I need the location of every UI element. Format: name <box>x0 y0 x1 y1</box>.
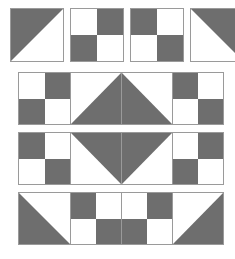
four-patch-quadrant-light <box>198 73 223 99</box>
row-1-detached-squares <box>10 8 235 62</box>
half-square-triangle-patch <box>173 193 223 244</box>
quilt-unit-half-square-triangle <box>121 73 172 124</box>
four-patch-grid <box>19 73 70 124</box>
quilt-unit-half-square-triangle <box>70 133 121 184</box>
quilt-unit-half-square-triangle <box>121 133 172 184</box>
four-patch-quadrant-dark <box>147 193 172 219</box>
four-patch-grid <box>173 133 223 184</box>
four-patch-grid <box>19 133 70 184</box>
four-patch-quadrant-dark <box>157 35 183 61</box>
quilt-block-diagram <box>0 0 235 259</box>
row-2-joined-strip <box>18 72 224 125</box>
row-3-joined-strip <box>18 132 224 185</box>
quilt-unit-four-patch <box>19 73 70 124</box>
four-patch-quadrant-light <box>71 9 97 35</box>
four-patch-quadrant-dark <box>19 99 45 125</box>
four-patch-quadrant-dark <box>173 159 198 185</box>
quilt-unit-half-square-triangle <box>190 8 235 62</box>
quilt-unit-four-patch <box>70 193 121 244</box>
dark-triangle-bottom-left <box>19 193 70 244</box>
four-patch-quadrant-dark <box>198 99 223 125</box>
quilt-unit-four-patch <box>70 8 124 62</box>
four-patch-quadrant-light <box>45 99 71 125</box>
row-4-joined-strip <box>18 192 224 245</box>
four-patch-grid <box>131 9 183 61</box>
four-patch-quadrant-dark <box>45 73 71 99</box>
four-patch-grid <box>173 73 223 124</box>
quilt-unit-four-patch <box>130 8 184 62</box>
four-patch-quadrant-light <box>96 193 121 219</box>
half-square-triangle-patch <box>19 193 70 244</box>
four-patch-quadrant-light <box>173 133 198 159</box>
half-square-triangle-patch <box>122 133 172 184</box>
quilt-unit-half-square-triangle <box>70 73 121 124</box>
four-patch-quadrant-dark <box>96 219 121 245</box>
four-patch-quadrant-light <box>173 99 198 125</box>
quilt-unit-four-patch <box>19 133 70 184</box>
quilt-unit-four-patch <box>121 193 172 244</box>
four-patch-quadrant-dark <box>19 133 45 159</box>
four-patch-quadrant-light <box>122 193 147 219</box>
four-patch-quadrant-light <box>147 219 172 245</box>
quilt-unit-four-patch <box>172 73 223 124</box>
quilt-unit-half-square-triangle <box>10 8 64 62</box>
four-patch-quadrant-light <box>19 73 45 99</box>
four-patch-quadrant-light <box>19 159 45 185</box>
dark-triangle-bottom-right <box>173 193 223 244</box>
four-patch-quadrant-dark <box>45 159 71 185</box>
four-patch-quadrant-light <box>198 159 223 185</box>
four-patch-quadrant-dark <box>198 133 223 159</box>
four-patch-quadrant-light <box>157 9 183 35</box>
four-patch-quadrant-dark <box>71 193 96 219</box>
dark-triangle-top-left <box>122 133 172 184</box>
dark-triangle-bottom-left <box>122 73 172 124</box>
four-patch-quadrant-dark <box>173 73 198 99</box>
four-patch-quadrant-light <box>45 133 71 159</box>
four-patch-quadrant-dark <box>97 9 123 35</box>
half-square-triangle-patch <box>11 9 63 61</box>
four-patch-grid <box>71 193 121 244</box>
four-patch-quadrant-light <box>131 35 157 61</box>
dark-triangle-top-right <box>71 133 121 184</box>
half-square-triangle-patch <box>122 73 172 124</box>
dark-triangle-top-right <box>191 9 235 61</box>
four-patch-quadrant-dark <box>71 35 97 61</box>
four-patch-grid <box>71 9 123 61</box>
dark-triangle-bottom-right <box>71 73 121 124</box>
quilt-unit-half-square-triangle <box>172 193 223 244</box>
half-square-triangle-patch <box>71 73 121 124</box>
four-patch-quadrant-dark <box>131 9 157 35</box>
four-patch-quadrant-light <box>71 219 96 245</box>
four-patch-quadrant-dark <box>122 219 147 245</box>
four-patch-quadrant-light <box>97 35 123 61</box>
quilt-unit-half-square-triangle <box>19 193 70 244</box>
half-square-triangle-patch <box>191 9 235 61</box>
dark-triangle-top-left <box>11 9 63 61</box>
four-patch-grid <box>122 193 172 244</box>
half-square-triangle-patch <box>71 133 121 184</box>
quilt-unit-four-patch <box>172 133 223 184</box>
